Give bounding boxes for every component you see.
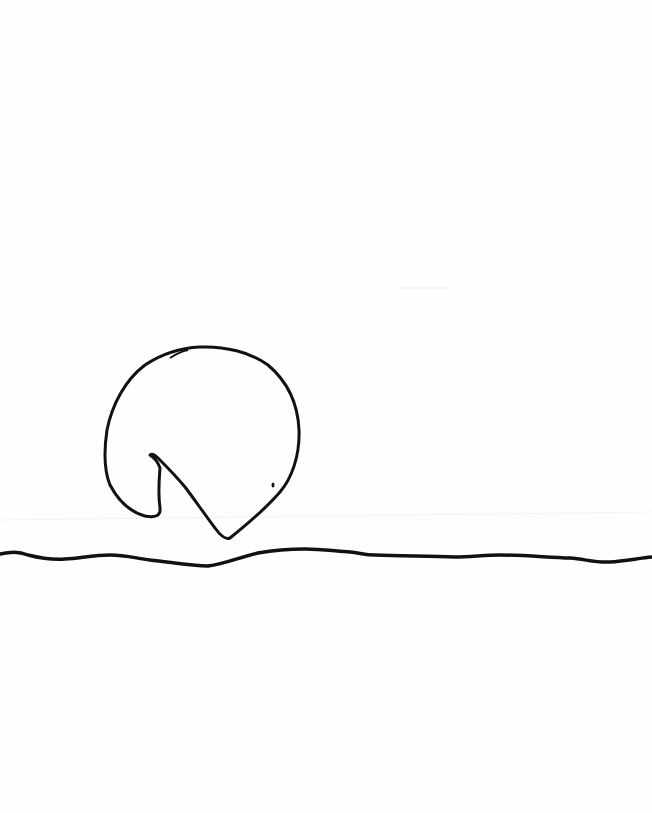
sketch-svg: [0, 0, 652, 813]
drawing-canvas: Line drawing of a circular shape with a …: [0, 0, 652, 813]
paper-fold: [0, 512, 652, 520]
horizon-line: [0, 549, 652, 566]
dot-mark: [272, 483, 275, 488]
notched-circle-shape: [105, 347, 299, 539]
